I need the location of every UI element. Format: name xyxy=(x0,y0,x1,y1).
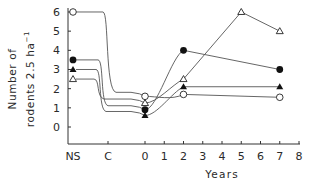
y-tick-label: 6 xyxy=(53,6,60,19)
line-chart: 0123456NSC012345678Years xyxy=(0,0,310,186)
open-triangle-marker xyxy=(70,76,77,82)
x-tick-label: 8 xyxy=(296,150,303,163)
filled-circle-marker xyxy=(70,57,77,64)
y-tick-label: 1 xyxy=(53,102,60,115)
y-tick-label: 3 xyxy=(53,63,60,76)
y-tick-label: 2 xyxy=(53,83,60,96)
x-tick-label: 1 xyxy=(161,150,168,163)
open-circle-marker xyxy=(142,93,149,100)
x-tick-label: 0 xyxy=(142,150,149,163)
open-circle-marker xyxy=(180,91,187,98)
y-tick-label: 0 xyxy=(53,121,60,134)
filled-circle-marker xyxy=(276,66,283,73)
open-circle-line xyxy=(76,12,280,98)
filled-circle-line xyxy=(76,50,280,109)
x-tick-label: 4 xyxy=(219,150,226,163)
open-triangle-marker xyxy=(238,8,245,14)
filled-triangle-marker xyxy=(276,83,283,89)
filled-triangle-line xyxy=(76,69,280,115)
x-tick-label: 2 xyxy=(180,150,187,163)
y-tick-label: 4 xyxy=(53,44,60,57)
open-triangle-marker xyxy=(276,28,283,34)
axis-tick-labels: 0123456NSC012345678Years xyxy=(53,6,303,180)
x-tick-label: 7 xyxy=(276,150,283,163)
filled-triangle-marker xyxy=(180,83,187,89)
series-lines xyxy=(76,12,280,116)
x-tick-label: 5 xyxy=(238,150,245,163)
open-circle-marker xyxy=(70,9,77,16)
filled-circle-marker xyxy=(180,47,187,54)
x-category-label: NS xyxy=(65,150,80,163)
x-tick-label: 6 xyxy=(257,150,264,163)
x-category-label: C xyxy=(104,150,112,163)
x-tick-label: 3 xyxy=(199,150,206,163)
y-tick-label: 5 xyxy=(53,25,60,38)
x-axis-title: Years xyxy=(204,168,239,180)
open-circle-marker xyxy=(276,94,283,101)
